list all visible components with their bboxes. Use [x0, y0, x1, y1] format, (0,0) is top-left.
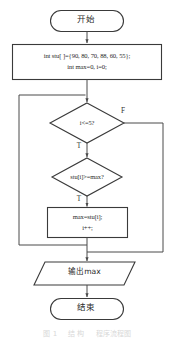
output-io-shape: [34, 262, 135, 285]
start-terminator-shape: [51, 11, 124, 32]
figure-caption: 图 1 结 构 程序流程图: [0, 328, 174, 338]
end-terminator-shape: [51, 299, 124, 320]
compare-condition-shape: [52, 158, 122, 196]
update-process-shape: [48, 208, 128, 238]
init-process-shape: [13, 45, 162, 80]
loop-condition-shape: [50, 103, 124, 143]
